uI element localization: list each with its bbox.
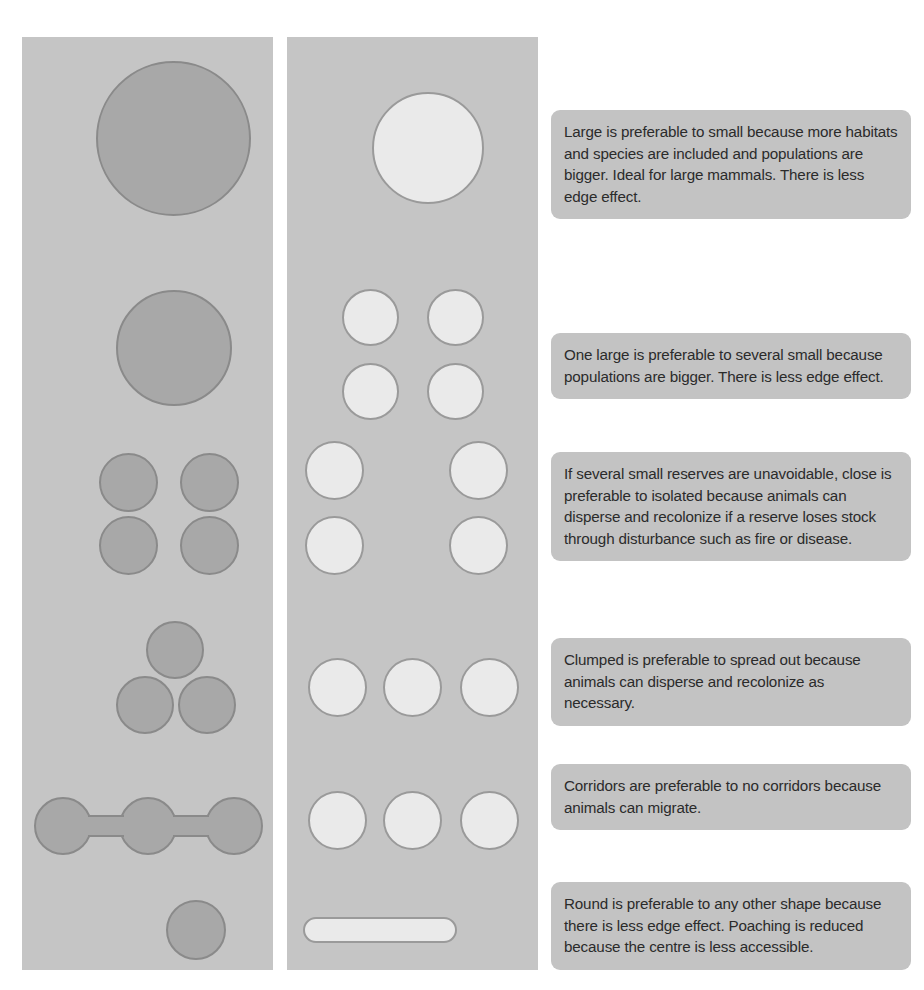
- callout-text: Corridors are preferable to no corridors…: [564, 777, 881, 816]
- reserve-circle: [119, 797, 177, 855]
- reserve-circle: [99, 453, 158, 512]
- reserve-circle: [166, 900, 226, 960]
- reserve-circle: [427, 289, 484, 346]
- reserve-circle: [180, 453, 239, 512]
- reserve-circle: [305, 516, 364, 575]
- reserve-circle: [99, 516, 158, 575]
- corridor-link: [88, 815, 124, 837]
- callout-round: Round is preferable to any other shape b…: [551, 882, 911, 970]
- reserve-circle: [308, 658, 367, 717]
- callout-text: One large is preferable to several small…: [564, 346, 884, 385]
- callout-large-vs-small: Large is preferable to small because mor…: [551, 110, 911, 219]
- callout-text: Clumped is preferable to spread out beca…: [564, 651, 861, 711]
- reserve-circle: [116, 290, 232, 406]
- reserve-circle: [308, 791, 367, 850]
- reserve-circle: [342, 289, 399, 346]
- callout-close-vs-isolated: If several small reserves are unavoidabl…: [551, 452, 911, 561]
- reserve-circle: [96, 61, 251, 216]
- reserve-circle: [449, 516, 508, 575]
- reserve-circle: [34, 797, 92, 855]
- reserve-circle: [146, 621, 204, 679]
- callout-one-large-vs-several-small: One large is preferable to several small…: [551, 333, 911, 399]
- callout-clumped-vs-spread-out: Clumped is preferable to spread out beca…: [551, 638, 911, 726]
- reserve-circle: [372, 92, 484, 204]
- reserve-circle: [205, 797, 263, 855]
- elongated-reserve: [303, 917, 457, 943]
- reserve-circle: [383, 791, 442, 850]
- reserve-circle: [178, 676, 236, 734]
- reserve-circle: [383, 658, 442, 717]
- reserve-circle: [449, 441, 508, 500]
- callout-text: If several small reserves are unavoidabl…: [564, 465, 891, 547]
- figure-canvas: Large is preferable to small because mor…: [0, 0, 924, 990]
- corridor-link: [173, 815, 209, 837]
- reserve-circle: [460, 658, 519, 717]
- reserve-circle: [116, 676, 174, 734]
- callout-text: Large is preferable to small because mor…: [564, 123, 898, 205]
- reserve-circle: [342, 363, 399, 420]
- reserve-circle: [460, 791, 519, 850]
- callout-text: Round is preferable to any other shape b…: [564, 895, 881, 955]
- reserve-circle: [180, 516, 239, 575]
- reserve-circle: [305, 441, 364, 500]
- reserve-circle: [427, 363, 484, 420]
- callout-corridors: Corridors are preferable to no corridors…: [551, 764, 911, 830]
